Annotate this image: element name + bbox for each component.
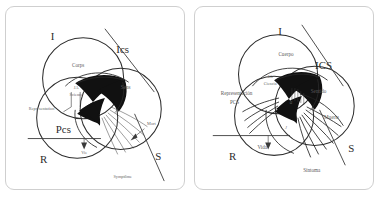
label-mort-fr: Mort [147, 121, 156, 126]
figure-root: I Ics Pcs R S Corps Sens JA Science Repr… [0, 0, 379, 197]
label-ics-es: ICS [315, 59, 332, 71]
borromean-diagram-spanish: I ICS R S Cuerpo Sentido Muerte JA Cienc… [195, 7, 373, 189]
label-corps-fr: Corps [72, 62, 84, 68]
representation-fan-es [242, 98, 279, 134]
label-science-line1-fr: JA [74, 85, 80, 90]
label-sens-fr: Sens [121, 84, 131, 90]
label-vida-es: Vida [257, 144, 267, 150]
label-representation-fr: Représentation [29, 106, 55, 111]
death-arrow [131, 129, 145, 141]
label-sentido-es: Sentido [311, 88, 327, 94]
label-jouissance-es: J [285, 125, 288, 130]
spanish-diagram-svg: I ICS R S Cuerpo Sentido Muerte JA Cienc… [195, 7, 373, 189]
label-pcs-fr: Pcs [56, 123, 71, 135]
label-representacion-es: Representación [221, 90, 253, 96]
label-ring-s-fr: S [155, 150, 161, 162]
label-ring-r-es: R [229, 150, 237, 162]
label-muerte-es: Muerte [324, 114, 340, 120]
label-cuerpo-es: Cuerpo [278, 51, 294, 57]
label-vie-fr: Vie [81, 150, 87, 155]
label-ics-fr: Ics [116, 43, 129, 55]
label-ring-i-es: I [278, 25, 282, 37]
panel-french: I Ics Pcs R S Corps Sens JA Science Repr… [5, 6, 185, 190]
label-pcs-es: PCS [230, 99, 239, 105]
label-ring-s-es: S [348, 142, 354, 154]
label-ring-i-fr: I [51, 30, 55, 42]
label-science-line2-es: Ciencia [264, 81, 277, 86]
french-diagram-svg: I Ics Pcs R S Corps Sens JA Science Repr… [6, 7, 184, 189]
borromean-diagram-french: I Ics Pcs R S Corps Sens JA Science Repr… [6, 7, 184, 189]
label-object-a-es: a [290, 99, 293, 105]
label-science-line2-fr: Science [70, 92, 83, 97]
label-ring-r-fr: R [40, 153, 48, 165]
panel-spanish: I ICS R S Cuerpo Sentido Muerte JA Cienc… [194, 6, 374, 190]
label-symptome-fr: Symptôme [113, 174, 132, 179]
label-sintoma-es: Síntoma [303, 167, 321, 173]
